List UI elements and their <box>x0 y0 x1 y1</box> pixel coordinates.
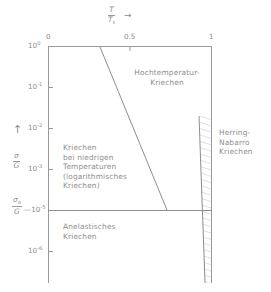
sigma-a-over-g-marker: σa G <box>12 196 22 216</box>
x-axis-label-denominator: Ts <box>108 16 115 26</box>
sigma-a-denominator: G <box>12 207 22 216</box>
x-axis-arrow-icon: → <box>124 11 132 21</box>
y-axis-arrow-icon: ↑ <box>13 124 22 135</box>
y-axis-label-denominator: G <box>13 162 20 171</box>
region-label-anelastisches-kriechen: Anelastisches Kriechen <box>63 222 155 241</box>
y-tick-label-e-6: 10-6 <box>28 246 42 255</box>
region-label-hochtemperatur-kriechen: Hochtemperatur- Kriechen <box>126 68 208 87</box>
x-axis-label-fraction: T Ts <box>108 6 115 26</box>
region-label-herring-nabarro-kriechen: Herring- Nabarro Kriechen <box>219 128 269 157</box>
x-axis-label-numerator: T <box>108 6 115 16</box>
y-tick-label-e-2: 10-2 <box>28 123 42 132</box>
creep-mechanism-diagram: T Ts → 0 0.5 1 100 10-1 10-2 10-3 10-6 ↑… <box>0 0 271 292</box>
y-tick-label-e0: 100 <box>28 41 40 50</box>
sigma-a-value-label: —10-5 <box>24 205 46 214</box>
y-tick-label-e-3: 10-3 <box>28 164 42 173</box>
region-label-niedrige-temperaturen: Kriechen bei niedrigen Temperaturen (log… <box>63 143 153 191</box>
sigma-a-numerator: σa <box>12 196 22 207</box>
y-tick-label-e-1: 10-1 <box>28 82 42 91</box>
y-axis-label-fraction: σ G <box>13 152 20 171</box>
y-axis-label-numerator: σ <box>13 152 20 162</box>
x-tick-label-0-5: 0.5 <box>124 32 135 41</box>
herring-nabarro-hatched-band <box>199 116 212 283</box>
x-tick-label-0: 0 <box>46 32 51 41</box>
x-tick-label-1: 1 <box>209 32 214 41</box>
